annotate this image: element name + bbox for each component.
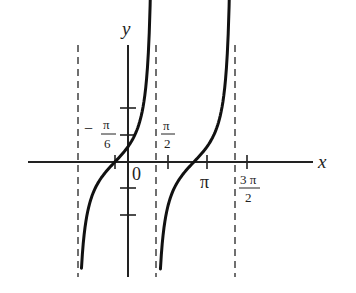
svg-text:6: 6: [104, 136, 111, 151]
svg-text:3 π: 3 π: [240, 172, 257, 187]
svg-text:2: 2: [245, 190, 252, 205]
tick-label-neg-pi-6: − π 6: [84, 117, 116, 151]
svg-text:π: π: [103, 117, 110, 132]
tick-label-pi-2: π 2: [161, 118, 175, 151]
svg-text:π: π: [163, 118, 170, 133]
origin-label: 0: [132, 164, 141, 184]
tangent-graph: y x 0 − π 6 π 2 π 3 π 2: [0, 0, 356, 293]
tick-label-pi: π: [200, 172, 209, 192]
tick-label-3pi-2: 3 π 2: [239, 172, 260, 205]
x-axis-label: x: [317, 151, 327, 172]
svg-text:2: 2: [164, 136, 171, 151]
y-axis-label: y: [120, 18, 131, 39]
svg-text:−: −: [84, 120, 93, 137]
